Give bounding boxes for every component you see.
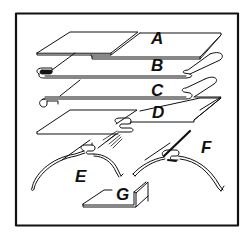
seam-a-lap (37, 32, 221, 59)
label-e: E (75, 168, 86, 185)
label-b: B (151, 57, 163, 74)
label-f: F (201, 139, 211, 156)
label-a: A (151, 30, 163, 47)
label-g: G (116, 186, 129, 203)
seam-c-hook (40, 77, 221, 110)
seam-d-double (37, 98, 221, 134)
seam-b-flat-lock (37, 53, 223, 78)
label-c: C (151, 82, 163, 99)
seam-illustration: A B C D E F G (0, 0, 249, 238)
label-d: D (152, 104, 164, 121)
